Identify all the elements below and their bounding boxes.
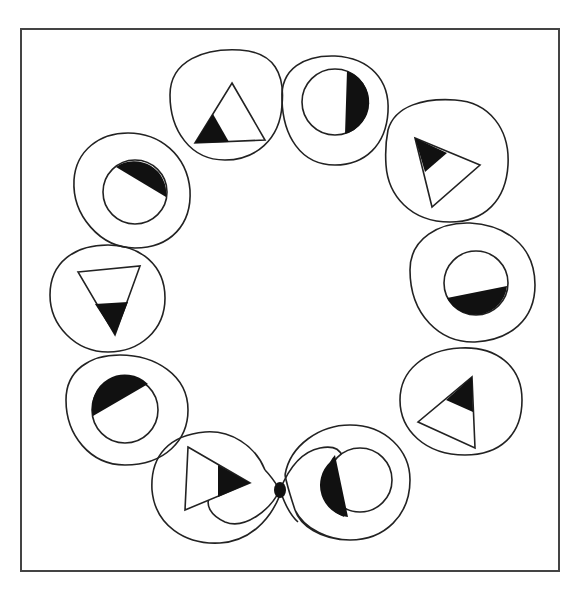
cell-7-triangle bbox=[185, 447, 250, 510]
junction-dot bbox=[274, 482, 286, 498]
cell-1-triangle bbox=[195, 83, 265, 143]
cell-9-triangle bbox=[78, 266, 140, 335]
cell-10-circle bbox=[103, 160, 167, 224]
cell-2-circle bbox=[302, 69, 369, 135]
loop-diagram bbox=[0, 0, 577, 592]
cell-8-circle bbox=[92, 375, 158, 443]
cell-6-circle bbox=[320, 448, 392, 517]
cell-4-circle bbox=[444, 251, 508, 315]
cell-3-triangle bbox=[415, 138, 480, 207]
cell-5-triangle bbox=[418, 377, 475, 448]
